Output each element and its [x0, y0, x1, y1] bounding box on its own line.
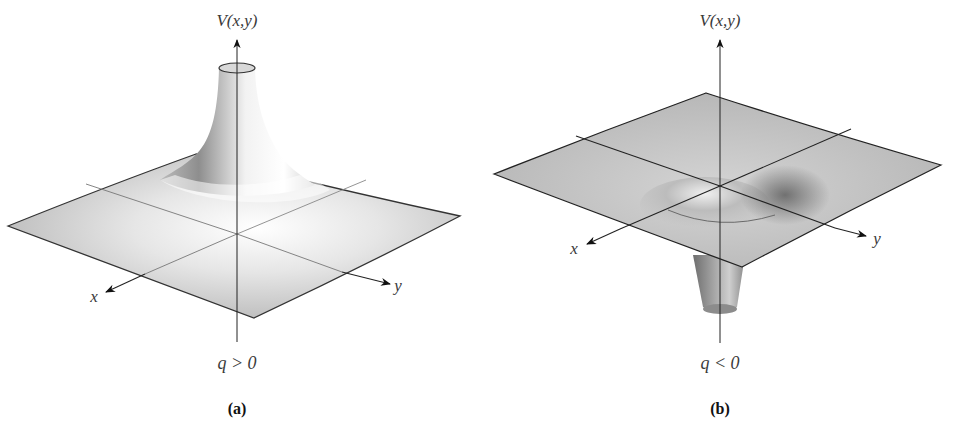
y-axis-arrow [342, 272, 390, 284]
y-axis-label: y [392, 276, 402, 295]
charge-condition: q < 0 [700, 353, 739, 373]
x-axis-label: x [89, 287, 98, 306]
figure-canvas: V(x,y) x y q > 0 (a) V(x,y) x y q < 0 (b… [0, 0, 953, 431]
vertical-axis-label: V(x,y) [699, 11, 740, 30]
charge-condition: q > 0 [217, 353, 256, 373]
vertical-axis-label: V(x,y) [216, 11, 257, 30]
panel-a: V(x,y) x y q > 0 (a) [8, 11, 460, 418]
panel-b: V(x,y) x y q < 0 (b) [494, 11, 941, 418]
x-axis-arrow [106, 274, 145, 292]
x-axis-label: x [569, 239, 578, 258]
x-axis-arrow [587, 229, 620, 244]
y-axis-label: y [871, 229, 881, 248]
panel-caption: (a) [228, 400, 247, 418]
well-shadow [740, 165, 830, 225]
y-axis-arrow [835, 228, 866, 236]
panel-caption: (b) [710, 400, 730, 418]
